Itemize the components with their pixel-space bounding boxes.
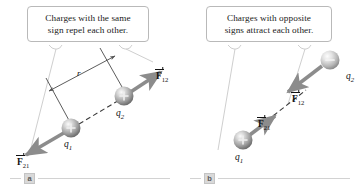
- panel-a-letter: a: [24, 173, 35, 184]
- panel-b-letter: b: [204, 173, 215, 184]
- distance-label-r-a: r: [77, 68, 81, 78]
- charge-label-q2-b-sub: 2: [351, 76, 354, 83]
- panel-a-rule-right: [38, 178, 170, 179]
- panel-b-rule-right: [218, 178, 350, 179]
- force-label-F21-b-sub: 21: [264, 124, 271, 131]
- force-label-F12-b-sub: 12: [298, 99, 305, 106]
- force-label-F21-b: F21: [258, 119, 270, 131]
- force-label-F21-a: F21: [17, 157, 29, 169]
- force-label-F21-b-symbol: F: [258, 119, 264, 129]
- callout-b-line1: Charges with opposite: [213, 12, 325, 24]
- panel-a-label-bar: a: [10, 172, 170, 184]
- callout-a-line2: sign repel each other.: [34, 24, 142, 36]
- force-label-F12-a-sub: 12: [162, 76, 169, 83]
- charge-label-q2-b: q2: [346, 71, 354, 83]
- charge-label-q1-a: q1: [64, 139, 72, 151]
- callout-b-line2: signs attract each other.: [213, 24, 325, 36]
- charge-label-q2-a-sub: 2: [121, 113, 124, 120]
- charge-label-q2-a: q2: [116, 108, 124, 120]
- charge-label-q1-a-sub: 1: [69, 144, 72, 151]
- force-label-F12-a: F12: [156, 71, 168, 83]
- force-label-F21-a-symbol: F: [17, 157, 23, 167]
- panel-b-rule-left: [190, 178, 201, 179]
- force-label-F12-b: F12: [292, 94, 304, 106]
- panel-b: Charges with opposite signs attract each…: [180, 0, 360, 194]
- callout-a-text: Charges with the same sign repel each ot…: [27, 6, 149, 42]
- force-label-F21-a-sub: 21: [23, 162, 30, 169]
- charge-label-q1-b: q1: [235, 152, 243, 164]
- callout-a-line1: Charges with the same: [34, 12, 142, 24]
- force-label-F12-b-symbol: F: [292, 94, 298, 104]
- panel-a-rule-left: [10, 178, 21, 179]
- panel-a: Charges with the same sign repel each ot…: [0, 0, 180, 194]
- callout-b-text: Charges with opposite signs attract each…: [206, 6, 332, 42]
- panel-b-label-bar: b: [190, 172, 350, 184]
- charge-label-q1-b-sub: 1: [240, 157, 243, 164]
- force-label-F12-a-symbol: F: [156, 71, 162, 81]
- coulomb-force-figure: Charges with the same sign repel each ot…: [0, 0, 360, 194]
